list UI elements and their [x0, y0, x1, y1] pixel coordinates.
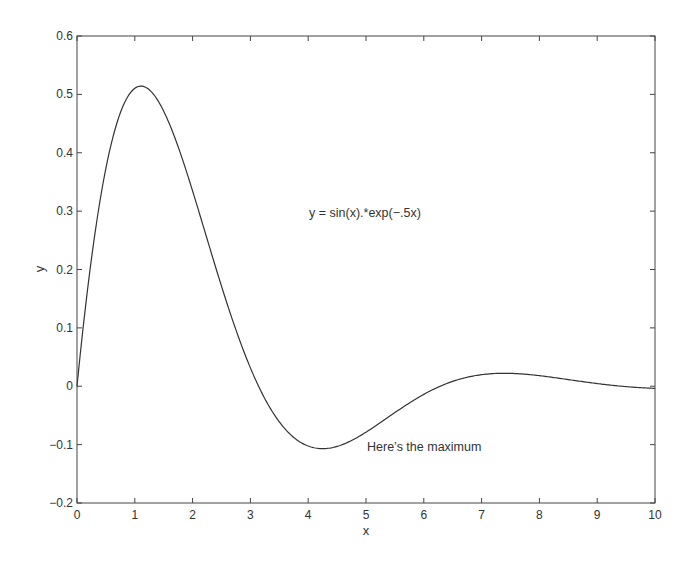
y-tick-label: 0.4: [56, 146, 73, 160]
x-tick-label: 2: [189, 508, 196, 522]
y-tick-label: 0.5: [56, 87, 73, 101]
formula-annotation: y = sin(x).*exp(−.5x): [309, 206, 421, 220]
x-tick-label: 4: [305, 508, 312, 522]
x-tick-label: 10: [648, 508, 662, 522]
plot-area-frame: [77, 36, 655, 503]
function-curve: [77, 86, 655, 449]
tick-labels: 012345678910−0.2−0.100.10.20.30.40.50.6: [49, 29, 662, 522]
x-tick-label: 3: [247, 508, 254, 522]
y-tick-label: 0.1: [56, 321, 73, 335]
x-tick-label: 8: [536, 508, 543, 522]
y-tick-label: 0.3: [56, 204, 73, 218]
figure: 012345678910−0.2−0.100.10.20.30.40.50.6 …: [0, 0, 697, 564]
y-tick-label: 0.2: [56, 263, 73, 277]
x-tick-label: 6: [420, 508, 427, 522]
maximum-annotation: Here’s the maximum: [367, 440, 481, 454]
x-tick-label: 5: [363, 508, 370, 522]
x-tick-label: 9: [594, 508, 601, 522]
y-axis-label: y: [32, 265, 47, 272]
x-tick-label: 0: [74, 508, 81, 522]
x-axis-label: x: [363, 523, 370, 538]
y-tick-label: 0: [66, 379, 73, 393]
x-tick-label: 7: [478, 508, 485, 522]
x-tick-label: 1: [131, 508, 138, 522]
y-tick-label: −0.2: [49, 496, 73, 510]
y-tick-label: 0.6: [56, 29, 73, 43]
axis-ticks: [77, 36, 655, 503]
y-tick-label: −0.1: [49, 438, 73, 452]
